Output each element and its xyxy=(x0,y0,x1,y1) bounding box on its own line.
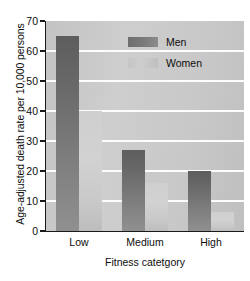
y-axis-tick-label: 10 xyxy=(0,195,38,207)
y-axis-tick-label: 50 xyxy=(0,75,38,87)
bar-chart-figure: Age-adjusted death rate per 10,000 perso… xyxy=(0,0,250,281)
legend-swatch-men-icon xyxy=(128,37,158,47)
bar-low-men xyxy=(56,36,79,231)
bar-high-women xyxy=(211,212,234,232)
legend-item-men: Men xyxy=(128,33,232,50)
y-axis-tick-label: 20 xyxy=(0,165,38,177)
legend-swatch-women-icon xyxy=(128,58,158,68)
x-axis-line xyxy=(45,231,244,232)
chart-legend: Men Women xyxy=(128,33,232,75)
x-axis-tick-label-high: High xyxy=(200,236,222,248)
y-axis-tick-label: 30 xyxy=(0,135,38,147)
y-axis-tick-label: 40 xyxy=(0,105,38,117)
y-axis-tick-label: 0 xyxy=(0,225,38,237)
legend-label-women: Women xyxy=(166,57,202,69)
y-axis-tick-label: 70 xyxy=(0,15,38,27)
bar-medium-women xyxy=(145,183,168,231)
x-axis-title: Fitness catetgory xyxy=(46,256,244,268)
x-axis-tick-label-medium: Medium xyxy=(126,236,163,248)
legend-label-men: Men xyxy=(166,36,186,48)
y-axis-tick-label: 60 xyxy=(0,45,38,57)
bar-low-women xyxy=(79,111,102,231)
legend-item-women: Women xyxy=(128,54,232,71)
bar-high-men xyxy=(188,171,211,231)
bar-medium-men xyxy=(122,150,145,231)
x-axis-tick-label-low: Low xyxy=(69,236,88,248)
